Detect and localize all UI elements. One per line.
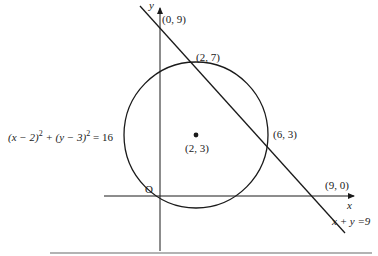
point-label-9-0: (9, 0) [325,179,349,192]
origin-label: O [145,183,153,195]
y-axis-label: y [148,0,154,11]
circle-equation: (x − 2)2 + (y − 3)2 = 16 [8,129,113,144]
x-axis-label: x [346,199,352,211]
point-label-2-7: (2, 7) [196,51,220,64]
line-equation: x + y =9 [331,215,371,227]
center-point [194,133,199,138]
diagram-canvas: y x O (0, 9) (2, 7) (2, 3) (6, 3) (9, 0)… [0,0,378,256]
point-label-0-9: (0, 9) [162,13,186,26]
center-label: (2, 3) [185,142,209,155]
point-label-6-3: (6, 3) [273,128,297,141]
tangent-line [140,6,345,233]
